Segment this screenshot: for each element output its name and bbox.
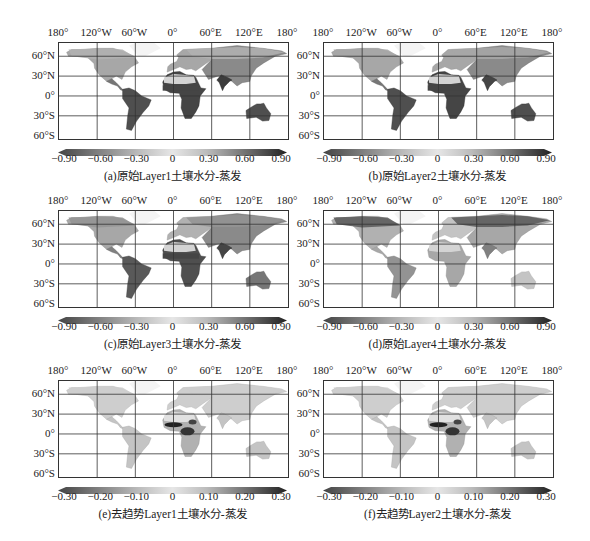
colorbar-tick-label: −0.30 [389,152,414,164]
lon-tick-label: 60°W [121,194,147,206]
lon-tick-label: 120°E [235,364,263,376]
lon-tick-label: 120°W [346,194,377,206]
lon-tick-label: 60°W [386,26,412,38]
colorbar-tick-label: −0.20 [352,490,377,502]
lon-tick-label: 120°E [500,364,528,376]
lat-tick-label: 30°S [298,109,320,121]
colorbar [323,480,552,487]
lon-tick-label: 60°E [200,26,222,38]
lon-tick-label: 0° [433,26,443,38]
lat-tick-label: 60°S [33,297,55,309]
lon-tick-label: 180° [542,194,563,206]
colorbar-tick-label: 0.30 [199,320,218,332]
lon-tick-label: 120°W [81,364,112,376]
lon-tick-label: 180° [542,364,563,376]
lat-tick-label: 30°N [32,69,55,81]
colorbar-tick-label: 0.60 [500,152,519,164]
colorbar-tick-label: 0.30 [464,152,483,164]
lat-tick-label: 0° [310,427,320,439]
lat-tick-label: 60°S [33,467,55,479]
lat-tick-label: 30°S [33,447,55,459]
map-plot-area [323,42,554,140]
map-plot-area [58,380,289,478]
lat-tick-label: 60°S [298,297,320,309]
lon-tick-label: 120°E [235,194,263,206]
lon-tick-label: 180° [48,364,69,376]
colorbar-tick-label: 0.20 [235,490,254,502]
colorbar-tick-label: 0 [170,152,176,164]
lon-tick-label: 120°E [235,26,263,38]
lat-tick-label: 0° [45,427,55,439]
panel-caption: (f)去趋势Layer2土壤水分-蒸发 [364,505,511,521]
lon-tick-label: 120°W [346,364,377,376]
colorbar-tick-label: 0.60 [235,320,254,332]
map-plot-area [58,210,289,308]
lat-tick-label: 30°S [33,109,55,121]
lat-tick-label: 30°N [297,237,320,249]
lat-tick-label: 0° [45,89,55,101]
lat-tick-label: 30°S [33,277,55,289]
lon-tick-label: 180° [313,26,334,38]
colorbar [58,142,287,149]
colorbar-tick-label: −0.30 [124,320,149,332]
map-panel-a: 180°120°W60°W0°60°E120°E180°60°N30°N0°30… [0,0,290,175]
map-panel-e: 180°120°W60°W0°60°E120°E180°60°N30°N0°30… [0,338,290,513]
colorbar-tick-label: 0.60 [500,320,519,332]
colorbar-tick-label: 0.30 [536,490,555,502]
colorbar [323,142,552,149]
map-panel-d: 180°120°W60°W0°60°E120°E180°60°N30°N0°30… [265,168,555,343]
lon-tick-label: 0° [168,26,178,38]
panel-caption: (e)去趋势Layer1土壤水分-蒸发 [98,505,246,521]
lon-tick-label: 120°W [81,194,112,206]
lon-tick-label: 180° [48,26,69,38]
lon-tick-label: 120°E [500,194,528,206]
colorbar-tick-label: 0 [170,490,176,502]
lat-tick-label: 0° [310,257,320,269]
colorbar-tick-label: −0.60 [87,152,112,164]
colorbar-tick-label: 0 [435,320,441,332]
colorbar-tick-label: −0.60 [87,320,112,332]
lat-tick-label: 60°N [297,49,320,61]
lat-tick-label: 30°N [297,69,320,81]
colorbar [323,310,552,317]
map-plot-area [323,210,554,308]
lon-tick-label: 60°E [200,194,222,206]
colorbar-tick-label: 0.20 [500,490,519,502]
lat-tick-label: 30°N [297,407,320,419]
lat-tick-label: 60°N [32,387,55,399]
lat-tick-label: 60°S [298,129,320,141]
lat-tick-label: 30°S [298,447,320,459]
lat-tick-label: 60°N [297,387,320,399]
colorbar-tick-label: −0.60 [352,152,377,164]
lat-tick-label: 30°N [32,237,55,249]
lon-tick-label: 180° [313,364,334,376]
colorbar-tick-label: 0.90 [536,152,555,164]
map-plot-area [323,380,554,478]
lon-tick-label: 60°W [386,194,412,206]
colorbar-tick-label: −0.90 [316,152,341,164]
lon-tick-label: 60°E [465,194,487,206]
lat-tick-label: 0° [45,257,55,269]
colorbar-tick-label: 0 [435,490,441,502]
colorbar-tick-label: 0.60 [235,152,254,164]
lat-tick-label: 30°S [298,277,320,289]
colorbar-tick-label: −0.90 [51,320,76,332]
lat-tick-label: 0° [310,89,320,101]
colorbar-tick-label: 0.30 [464,320,483,332]
colorbar-tick-label: 0.10 [199,490,218,502]
lon-tick-label: 120°E [500,26,528,38]
colorbar-tick-label: −0.10 [124,490,149,502]
lon-tick-label: 60°W [121,364,147,376]
colorbar-tick-label: −0.30 [124,152,149,164]
colorbar [58,480,287,487]
lat-tick-label: 60°N [32,217,55,229]
map-panel-f: 180°120°W60°W0°60°E120°E180°60°N30°N0°30… [265,338,555,513]
lat-tick-label: 60°N [297,217,320,229]
lon-tick-label: 60°W [386,364,412,376]
colorbar-tick-label: −0.10 [389,490,414,502]
colorbar [58,310,287,317]
lat-tick-label: 60°S [298,467,320,479]
lon-tick-label: 180° [48,194,69,206]
lat-tick-label: 60°S [33,129,55,141]
colorbar-tick-label: −0.90 [51,152,76,164]
